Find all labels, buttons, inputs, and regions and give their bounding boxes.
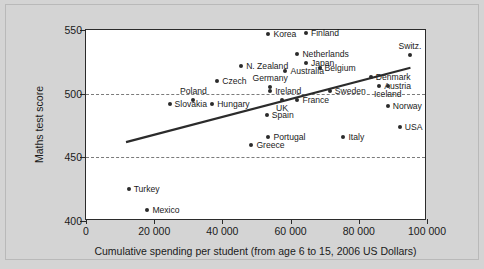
point-label-france: France bbox=[302, 96, 329, 105]
point-label-ireland: Ireland bbox=[275, 87, 301, 96]
figure-panel: Maths test score Cumulative spending per… bbox=[5, 4, 479, 260]
x-tick-mark bbox=[222, 219, 223, 224]
data-point-hungary bbox=[210, 102, 214, 106]
x-tick-label: 20 000 bbox=[138, 225, 170, 237]
data-point-iceland bbox=[386, 84, 390, 88]
point-label-poland: Poland bbox=[180, 87, 207, 96]
x-axis-title: Cumulative spending per student (from ag… bbox=[85, 245, 426, 257]
y-axis-title: Maths test score bbox=[32, 29, 46, 220]
x-tick-mark bbox=[359, 219, 360, 224]
x-tick-label: 80 000 bbox=[343, 225, 375, 237]
data-point-slovakia bbox=[168, 102, 172, 106]
x-tick-mark bbox=[291, 219, 292, 224]
x-tick-mark bbox=[86, 219, 87, 224]
y-tick-label: 500 bbox=[64, 88, 82, 100]
point-label-mexico: Mexico bbox=[152, 205, 179, 214]
point-label-sweden: Sweden bbox=[335, 87, 366, 96]
y-tick-label: 400 bbox=[64, 215, 82, 227]
x-tick-label: 100 000 bbox=[408, 225, 446, 237]
point-label-norway: Norway bbox=[393, 102, 422, 111]
point-label-hungary: Hungary bbox=[217, 99, 249, 108]
y-tick-label: 450 bbox=[64, 151, 82, 163]
point-label-australia: Australia bbox=[290, 66, 323, 75]
data-point-sweden bbox=[328, 89, 332, 93]
point-label-usa: USA bbox=[405, 122, 423, 131]
point-label-iceland: Iceland bbox=[374, 90, 402, 99]
data-point-n-zealand bbox=[239, 64, 243, 68]
point-label-korea: Korea bbox=[273, 29, 296, 38]
point-label-n-zealand: N. Zealand bbox=[246, 61, 288, 70]
point-label-italy: Italy bbox=[348, 132, 364, 141]
point-label-belgium: Belgium bbox=[325, 64, 356, 73]
point-label-turkey: Turkey bbox=[134, 185, 160, 194]
x-tick-label: 40 000 bbox=[206, 225, 238, 237]
plot-area: 400450500550 020 00040 00060 00080 00010… bbox=[85, 29, 426, 220]
x-tick-mark bbox=[427, 219, 428, 224]
point-label-czech: Czech bbox=[222, 76, 246, 85]
data-point-mexico bbox=[145, 208, 149, 212]
point-label-greece: Greece bbox=[256, 140, 284, 149]
data-point-finland bbox=[304, 31, 308, 35]
point-label-switz: Switz. bbox=[398, 42, 421, 51]
point-label-slovakia: Slovakia bbox=[175, 99, 207, 108]
x-tick-label: 60 000 bbox=[275, 225, 307, 237]
x-tick-label: 0 bbox=[83, 225, 89, 237]
data-point-turkey bbox=[127, 187, 131, 191]
y-tick-label: 550 bbox=[64, 24, 82, 36]
x-tick-mark bbox=[154, 219, 155, 224]
point-label-spain: Spain bbox=[272, 111, 294, 120]
data-point-denmark bbox=[369, 75, 373, 79]
point-label-finland: Finland bbox=[311, 28, 339, 37]
data-point-usa bbox=[398, 125, 402, 129]
figure-container: Maths test score Cumulative spending per… bbox=[0, 0, 484, 269]
point-label-germany: Germany bbox=[252, 74, 287, 83]
